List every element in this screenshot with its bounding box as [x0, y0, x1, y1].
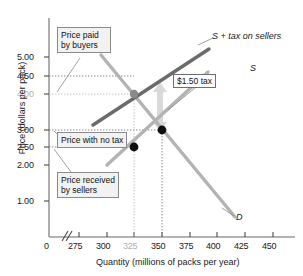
curve-label-demand: D — [236, 212, 243, 222]
x-tick-375: 375 — [179, 241, 193, 251]
x-tick-300: 300 — [96, 241, 110, 251]
x-tick-450: 450 — [262, 241, 276, 251]
callout-price-received-by-sellers-line2: by sellers — [61, 185, 115, 195]
x-tick-275: 275 — [68, 241, 82, 251]
y-tick-1-00: 1.00 — [17, 196, 34, 206]
supply-demand-tax-chart: 5.00 4.50 4.00 3.00 2.50 2.00 1.00 0 275… — [0, 0, 303, 276]
callout-price-paid-by-buyers-line1: Price paid — [61, 30, 107, 40]
leader-tax-box — [168, 88, 195, 110]
tax-amount-box: $1.50 tax — [173, 74, 216, 88]
curve-label-supply: S — [250, 63, 256, 73]
x-tick-0: 0 — [44, 241, 49, 251]
leader-price-paid-by-buyers — [57, 58, 80, 92]
callout-price-received-by-sellers: Price received by sellers — [57, 172, 119, 198]
callout-price-with-no-tax: Price with no tax — [57, 132, 127, 148]
marker-no-tax-equilibrium — [158, 126, 167, 135]
x-axis-break-icon — [62, 231, 72, 241]
callout-price-received-by-sellers-line1: Price received — [61, 175, 115, 185]
curve-label-supply-plus-tax: S + tax on sellers — [212, 31, 281, 41]
y-axis-title: Price (dollars per pack) — [17, 48, 27, 168]
leader-supply-plus-tax-label — [198, 38, 213, 45]
callout-price-paid-by-buyers-line2: by buyers — [61, 40, 107, 50]
callout-price-paid-by-buyers: Price paid by buyers — [57, 27, 111, 53]
x-tick-400: 400 — [206, 241, 220, 251]
x-tick-425: 425 — [234, 241, 248, 251]
x-axis-title: Quantity (millions of packs per year) — [96, 257, 240, 267]
guide-lines — [49, 76, 162, 237]
x-tick-325: 325 — [123, 241, 137, 251]
x-tick-350: 350 — [151, 241, 165, 251]
marker-price-received-by-sellers — [130, 143, 139, 152]
chart-canvas — [0, 0, 303, 276]
marker-with-tax-equilibrium — [130, 90, 138, 98]
